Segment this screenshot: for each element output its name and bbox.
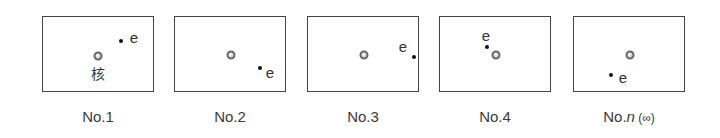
- caption-variable: n: [627, 108, 635, 125]
- electron-icon: [609, 73, 613, 77]
- caption-text: No.2: [214, 108, 246, 125]
- electron-label: e: [399, 39, 407, 54]
- nucleus-icon: [626, 51, 635, 60]
- electron-label: e: [130, 30, 138, 45]
- electron-label: e: [619, 70, 627, 85]
- nucleus-icon: [492, 51, 501, 60]
- panel-caption-5: No.n (∞): [603, 108, 655, 127]
- panel-caption-3: No.3: [347, 108, 379, 126]
- observation-frame-1: e核: [42, 16, 154, 92]
- electron-icon: [412, 55, 416, 59]
- electron-icon: [119, 39, 123, 43]
- caption-text: No.4: [479, 108, 511, 125]
- infinity-suffix: (∞): [635, 111, 655, 125]
- electron-icon: [258, 66, 262, 70]
- observation-frame-2: e: [174, 16, 286, 92]
- nucleus-icon: [360, 51, 369, 60]
- panel-caption-2: No.2: [214, 108, 246, 126]
- caption-text: No.3: [347, 108, 379, 125]
- nucleus-icon: [227, 51, 236, 60]
- electron-icon: [485, 45, 489, 49]
- panel-caption-1: No.1: [82, 108, 114, 126]
- nucleus-icon: [94, 52, 103, 61]
- observation-frame-4: e: [439, 16, 551, 92]
- panel-caption-4: No.4: [479, 108, 511, 126]
- observation-frame-5: e: [573, 16, 685, 92]
- caption-text: No.: [603, 108, 626, 125]
- nucleus-label: 核: [91, 67, 105, 81]
- electron-label: e: [266, 65, 274, 80]
- observation-frame-3: e: [307, 16, 419, 92]
- electron-label: e: [482, 28, 490, 43]
- caption-text: No.1: [82, 108, 114, 125]
